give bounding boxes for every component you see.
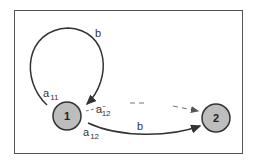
self-loop-edge bbox=[30, 28, 103, 105]
a11-label: a11 bbox=[43, 88, 58, 99]
edge-1-2-label: b bbox=[137, 121, 143, 132]
self-loop-label: b bbox=[95, 28, 101, 39]
dashed-edge-1-to-2 bbox=[130, 103, 198, 111]
a12-label: a12 bbox=[83, 127, 99, 138]
node-2-label: 2 bbox=[203, 105, 229, 131]
a12-tilde-label: a~12 bbox=[96, 104, 111, 115]
node-1-label: 1 bbox=[54, 103, 80, 129]
edge-1-to-2 bbox=[88, 123, 200, 134]
diagram-canvas bbox=[0, 0, 257, 161]
